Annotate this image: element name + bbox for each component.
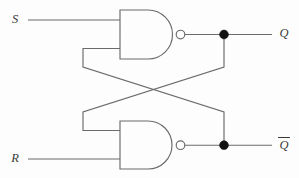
circuit-canvas: S R Q Q <box>0 0 299 178</box>
bottom-nand-inverting-bubble <box>176 141 185 150</box>
logic-circuit-diagram: S R Q Q <box>0 0 299 178</box>
s-input-label: S <box>12 12 19 26</box>
bottom-nand-gate <box>120 121 185 169</box>
qbar-output-label: Q <box>279 138 288 152</box>
q-junction-dot <box>220 30 229 39</box>
top-nand-gate <box>120 10 185 59</box>
qbar-junction-dot <box>220 141 229 150</box>
bottom-nand-gate-body <box>120 121 172 169</box>
top-nand-inverting-bubble <box>176 30 185 39</box>
qbar-output-label-group: Q <box>278 138 290 152</box>
top-nand-gate-body <box>120 10 173 59</box>
r-input-label: R <box>10 151 19 165</box>
q-output-label: Q <box>279 26 288 40</box>
